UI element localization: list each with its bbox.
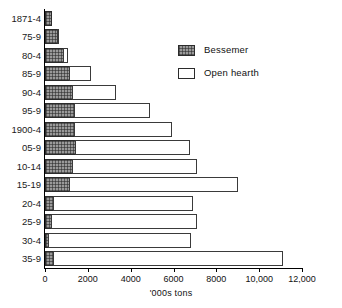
bar-row [45, 214, 302, 229]
bar-segment-open-hearth [72, 85, 116, 100]
x-axis-title: '000s tons [0, 288, 342, 298]
bar-row [45, 122, 302, 137]
y-axis-tick-label: 10-14 [0, 161, 41, 172]
bar-row [45, 177, 302, 192]
legend-label-bessemer: Bessemer [204, 44, 248, 55]
y-axis-tick-label: 80-4 [0, 50, 41, 61]
y-axis-tick-label: 90-4 [0, 87, 41, 98]
bar-segment-bessemer [45, 48, 64, 63]
y-axis-tick-label: 30-4 [0, 235, 41, 246]
bar-segment-bessemer [45, 66, 70, 81]
bar-segment-bessemer [45, 85, 73, 100]
bar-segment-open-hearth [69, 66, 91, 81]
y-axis-tick-label: 75-9 [0, 31, 41, 42]
y-axis-tick-label: 1871-4 [0, 13, 41, 24]
hatched-square-icon [178, 45, 195, 56]
y-axis-tick-label: 35-9 [0, 253, 41, 264]
bars-container [45, 9, 302, 268]
x-axis-tick [216, 268, 217, 272]
bar-row [45, 140, 302, 155]
bar-segment-bessemer [45, 140, 76, 155]
y-axis-tick-label: 1900-4 [0, 124, 41, 135]
bar-segment-open-hearth [57, 29, 59, 44]
white-square-icon [178, 68, 195, 79]
bar-segment-open-hearth [53, 251, 283, 266]
bar-segment-bessemer [45, 122, 75, 137]
x-axis-tick [302, 268, 303, 272]
y-axis-tick-label: 25-9 [0, 216, 41, 227]
legend-label-open-hearth: Open hearth [204, 67, 259, 78]
bar-row [45, 196, 302, 211]
y-axis-tick-label: 85-9 [0, 68, 41, 79]
x-axis-tick [174, 268, 175, 272]
bar-row [45, 66, 302, 81]
y-axis-tick-label: 20-4 [0, 198, 41, 209]
bar-row [45, 159, 302, 174]
bar-segment-open-hearth [53, 196, 193, 211]
bar-row [45, 233, 302, 248]
bar-row [45, 48, 302, 63]
bar-segment-open-hearth [63, 48, 68, 63]
bar-segment-bessemer [45, 11, 52, 26]
steel-production-chart: 1871-475-980-485-990-495-91900-405-910-1… [0, 0, 342, 308]
bar-segment-open-hearth [72, 159, 196, 174]
x-axis-tick [88, 268, 89, 272]
bar-segment-open-hearth [74, 103, 150, 118]
x-axis-tick [259, 268, 260, 272]
bar-segment-bessemer [45, 177, 70, 192]
y-axis-tick-label: 95-9 [0, 105, 41, 116]
bar-segment-bessemer [45, 103, 75, 118]
bar-row [45, 103, 302, 118]
bar-row [45, 85, 302, 100]
x-axis-tick [131, 268, 132, 272]
bar-row [45, 11, 302, 26]
bar-segment-bessemer [45, 159, 73, 174]
y-axis-tick-label: 15-19 [0, 179, 41, 190]
bar-segment-open-hearth [48, 233, 191, 248]
bar-segment-open-hearth [75, 140, 190, 155]
bar-segment-open-hearth [51, 214, 197, 229]
x-axis-tick [45, 268, 46, 272]
bar-segment-open-hearth [74, 122, 171, 137]
bar-row [45, 29, 302, 44]
bar-row [45, 251, 302, 266]
bar-segment-open-hearth [69, 177, 238, 192]
x-axis-tick-label: 12,000 [277, 274, 327, 284]
y-axis-tick-label: 05-9 [0, 142, 41, 153]
